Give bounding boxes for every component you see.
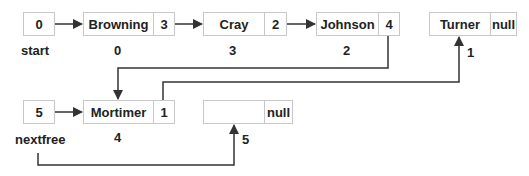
node-cray: Cray 2	[203, 12, 287, 36]
node-name: Cray	[204, 13, 264, 35]
arrow-nextfree-to-empty	[38, 125, 234, 165]
node-index: 4	[114, 130, 121, 145]
nextfree-value: 5	[24, 101, 54, 123]
node-empty: null	[203, 100, 293, 124]
node-name	[204, 101, 264, 123]
node-next: null	[490, 13, 516, 35]
node-name: Johnson	[317, 13, 378, 35]
node-mortimer: Mortimer 1	[83, 100, 175, 124]
node-next: null	[264, 101, 292, 123]
start-label: start	[21, 43, 49, 58]
nextfree-label: nextfree	[15, 132, 66, 147]
node-next: 2	[264, 13, 286, 35]
node-next: 1	[153, 101, 174, 123]
node-turner: Turner null	[429, 12, 517, 36]
start-value: 0	[24, 13, 54, 35]
node-browning: Browning 3	[83, 12, 175, 36]
node-index: 1	[467, 45, 474, 60]
node-johnson: Johnson 4	[316, 12, 400, 36]
start-pointer-box: 0	[23, 12, 55, 36]
node-name: Mortimer	[84, 101, 153, 123]
node-next: 4	[378, 13, 399, 35]
node-index: 2	[343, 43, 350, 58]
node-name: Browning	[84, 13, 153, 35]
node-name: Turner	[430, 13, 490, 35]
node-next: 3	[153, 13, 174, 35]
node-index: 3	[229, 43, 236, 58]
node-index: 5	[242, 132, 249, 147]
nextfree-pointer-box: 5	[23, 100, 55, 124]
node-index: 0	[114, 43, 121, 58]
